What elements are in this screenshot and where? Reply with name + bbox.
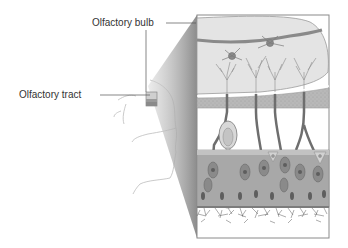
olfactory-region-box	[146, 92, 157, 106]
projection-wedge	[148, 15, 197, 238]
olfactory-diagram	[0, 0, 348, 248]
olfactory-bulb-label: Olfactory bulb	[92, 18, 154, 28]
olfactory-bulb	[197, 16, 328, 94]
detail-panel	[197, 15, 329, 238]
olfactory-tract-label: Olfactory tract	[19, 90, 81, 100]
